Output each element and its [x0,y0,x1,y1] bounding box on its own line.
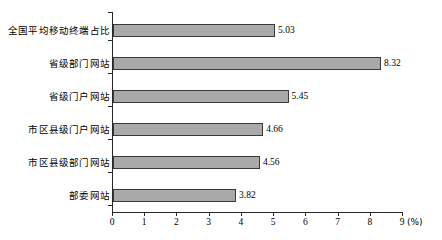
y-axis-tick [108,106,112,107]
bar-value-label: 5.03 [278,24,295,37]
x-axis-tick [241,212,242,216]
category-label: 全国平均移动终端占比 [8,24,110,37]
x-axis-tick [273,212,274,216]
bar [113,123,263,136]
plot-area: 5.03 8.32 5.45 4.66 4.56 3.82 0123456789… [112,12,402,212]
bar [113,156,260,169]
bar-value-label: 5.45 [292,90,309,103]
y-axis-tick [108,12,112,13]
category-labels-column: 全国平均移动终端占比 省级部门网站 省级门户网站 市区县级门户网站 市区县级部门… [0,0,110,240]
y-axis-tick [108,205,112,206]
x-axis-tick-label: 8 [367,217,372,227]
category-label: 市区县级门户网站 [28,123,110,136]
y-axis-tick [108,40,112,41]
bar [113,57,381,70]
bar [113,189,236,202]
category-label: 省级部门网站 [49,57,110,70]
x-axis-tick [370,212,371,216]
bar-value-label: 3.82 [239,189,256,202]
y-axis-tick [108,172,112,173]
category-label: 市区县级部门网站 [28,156,110,169]
x-axis-tick-label: 0 [110,217,115,227]
x-axis-tick [176,212,177,216]
y-axis-line [112,12,113,212]
x-axis-tick-label: 6 [303,217,308,227]
x-axis-tick-label: 5 [271,217,276,227]
x-axis-tick [144,212,145,216]
x-axis-tick [338,212,339,216]
bar [113,24,275,37]
y-axis-tick [108,73,112,74]
x-axis-unit-label: (%) [407,217,423,227]
x-axis-tick-label: 9 [400,217,405,227]
x-axis-tick [209,212,210,216]
category-label: 省级门户网站 [49,90,110,103]
bar-value-label: 8.32 [384,57,401,70]
x-axis-tick [402,212,403,216]
x-axis-tick-label: 3 [206,217,211,227]
x-axis-tick-label: 4 [239,217,244,227]
x-axis-line [112,212,402,213]
x-axis-tick [112,212,113,216]
y-axis-tick [108,139,112,140]
bar [113,90,289,103]
horizontal-bar-chart: 全国平均移动终端占比 省级部门网站 省级门户网站 市区县级门户网站 市区县级部门… [0,0,442,240]
category-label: 部委网站 [69,189,110,202]
x-axis-tick-label: 1 [142,217,147,227]
bar-value-label: 4.56 [263,156,280,169]
x-axis-tick [305,212,306,216]
x-axis-tick-label: 2 [174,217,179,227]
bar-value-label: 4.66 [266,123,283,136]
x-axis-tick-label: 7 [335,217,340,227]
